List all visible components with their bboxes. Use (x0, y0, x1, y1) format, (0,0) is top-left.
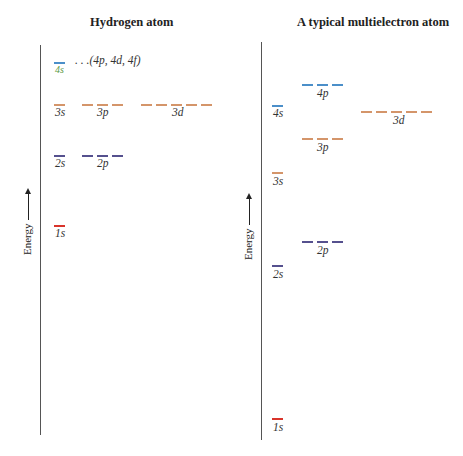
level-1s-label: 1s (273, 421, 283, 433)
level-3d-orbital (406, 111, 417, 113)
level-3d-orbital (376, 111, 387, 113)
level-3p-orbital (332, 138, 343, 140)
level-1s-label: 1s (55, 227, 65, 239)
multielectron-energy-label: Energy (242, 199, 254, 260)
level-3d-orbital (186, 104, 197, 106)
level-2p-orbital (302, 241, 313, 243)
hydrogen-4-note: . . .(4p, 4d, 4f) (75, 54, 140, 66)
level-3d-label: 3d (172, 106, 184, 118)
level-2p-label: 2p (317, 244, 329, 256)
level-2p-orbital (112, 155, 123, 157)
level-3s-label: 3s (55, 106, 65, 118)
level-4s-label: 4s (55, 64, 64, 75)
level-3d-orbital (421, 111, 432, 113)
level-4p-label: 4p (317, 87, 329, 99)
level-2p-orbital (82, 155, 93, 157)
level-2s-label: 2s (55, 157, 65, 169)
level-3p-label: 3p (317, 141, 329, 153)
level-3p-orbital (317, 138, 328, 140)
hydrogen-energy-axis (40, 45, 41, 435)
level-4p-orbital (317, 84, 328, 86)
level-2p-label: 2p (97, 157, 109, 169)
hydrogen-energy-label: Energy (21, 194, 33, 255)
level-3s-orbital (272, 172, 283, 174)
level-2s-label: 2s (273, 268, 283, 280)
arrow-up-icon (28, 194, 29, 220)
level-3d-orbital (141, 104, 152, 106)
level-3d-orbital (156, 104, 167, 106)
level-1s-orbital (272, 418, 283, 420)
arrow-up-icon (249, 199, 250, 225)
level-2p-orbital (317, 241, 328, 243)
multielectron-title: A typical multielectron atom (297, 15, 449, 30)
level-2s-orbital (272, 265, 283, 267)
level-3p-label: 3p (97, 106, 109, 118)
level-3p-orbital (302, 138, 313, 140)
level-4s-label: 4s (273, 107, 283, 119)
level-4p-orbital (332, 84, 343, 86)
level-3d-orbital (391, 111, 402, 113)
level-3p-orbital (82, 104, 93, 106)
multielectron-energy-axis (261, 42, 262, 440)
level-3d-orbital (201, 104, 212, 106)
level-3d-label: 3d (393, 114, 405, 126)
level-4p-orbital (302, 84, 313, 86)
level-3d-orbital (361, 111, 372, 113)
level-3s-label: 3s (273, 175, 283, 187)
level-2p-orbital (332, 241, 343, 243)
level-3p-orbital (112, 104, 123, 106)
hydrogen-title: Hydrogen atom (90, 15, 173, 30)
